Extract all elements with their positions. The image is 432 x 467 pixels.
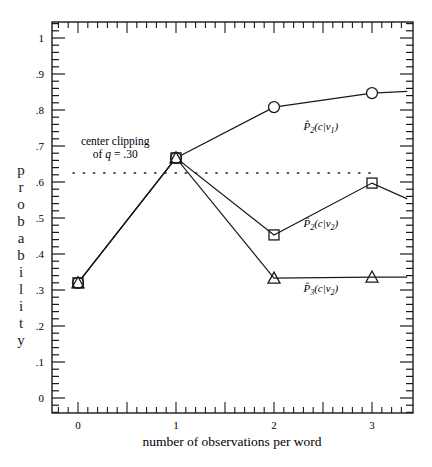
y-tick-label: .7 — [36, 140, 45, 152]
x-axis-label: number of observations per word — [142, 434, 321, 449]
chart: 0.1.2.3.4.5.6.7.8.910123 P̂2(c|v1)P̂2(c|… — [0, 0, 432, 467]
x-tick-label: 2 — [271, 419, 277, 431]
data-point-square — [367, 178, 377, 188]
x-tick-label: 0 — [75, 419, 81, 431]
series-label-text: ) — [334, 120, 339, 133]
y-axis-label-letter: l — [19, 281, 23, 298]
tick-labels: 0.1.2.3.4.5.6.7.8.910123 — [36, 32, 376, 431]
annotation-q-suffix: = .30 — [111, 148, 138, 160]
series-label-text: (c|v — [314, 120, 331, 133]
y-tick-label: .1 — [36, 356, 44, 368]
y-axis-label-letter: b — [17, 247, 25, 264]
series-markers — [72, 88, 378, 289]
y-axis-label-letter: o — [17, 196, 25, 213]
y-tick-label: .2 — [36, 320, 44, 332]
y-axis-label-letter: a — [18, 230, 25, 247]
plot-border — [52, 22, 413, 413]
series-label-text: (c|v — [314, 217, 331, 230]
y-axis-label-letter: i — [19, 264, 23, 281]
annotation-q-value: of q = .30 — [93, 148, 138, 161]
axis-ticks — [52, 22, 413, 413]
series-line-triangle — [78, 158, 407, 283]
y-axis-label-letter: t — [19, 315, 23, 332]
series-labels: P̂2(c|v1)P̂2(c|v2)P̂3(c|v2) — [302, 120, 338, 297]
y-tick-label: 1 — [39, 32, 45, 44]
annotation-q-prefix: of — [93, 148, 105, 160]
series-label-triangle: P̂3(c|v2) — [302, 282, 338, 297]
y-tick-label: 0 — [39, 392, 45, 404]
series-label-text: ) — [334, 282, 339, 295]
series-lines — [78, 91, 407, 283]
y-axis-label-letter: b — [17, 213, 25, 230]
data-point-circle — [269, 102, 280, 113]
x-tick-label: 1 — [173, 419, 179, 431]
y-axis-label-letter: r — [19, 179, 24, 196]
annotation-center-clipping: center clipping — [81, 135, 150, 148]
series-line-circle — [78, 91, 407, 283]
x-tick-label: 3 — [369, 419, 375, 431]
y-tick-label: .9 — [36, 68, 45, 80]
series-label-circle: P̂2(c|v1) — [302, 120, 338, 135]
y-axis-label-letter: i — [19, 298, 23, 315]
y-tick-label: .3 — [36, 284, 45, 296]
data-point-circle — [367, 88, 378, 99]
series-label-text: ) — [334, 217, 339, 230]
y-tick-label: .5 — [36, 212, 45, 224]
plot-frame — [52, 22, 413, 413]
y-axis-label-letter: y — [17, 332, 25, 349]
series-label-text: (c|v — [314, 282, 331, 295]
series-label-square: P̂2(c|v2) — [302, 217, 338, 232]
y-axis-label: probability — [14, 162, 28, 349]
y-tick-label: .8 — [36, 104, 45, 116]
data-point-square — [269, 230, 279, 240]
y-axis-label-letter: p — [17, 162, 25, 179]
y-tick-label: .6 — [36, 176, 45, 188]
y-tick-label: .4 — [36, 248, 45, 260]
